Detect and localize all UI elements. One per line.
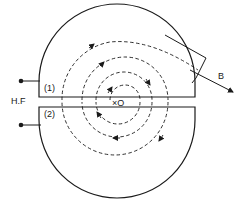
dee-lower-label: (2): [44, 110, 55, 119]
direction-arrows: [89, 44, 163, 141]
deflector-plate: [165, 35, 206, 83]
beam-exit-arrow: [190, 70, 233, 92]
spiral-path: [62, 42, 198, 155]
dee-upper: [39, 4, 195, 97]
hf-terminal-lower: [19, 123, 24, 128]
beam-label: B: [218, 72, 224, 81]
hf-label: H.F: [11, 97, 26, 106]
center-label: ×O: [112, 99, 124, 108]
dee-upper-label: (1): [44, 84, 55, 93]
hf-terminal-upper: [19, 79, 24, 84]
dee-lower: [39, 107, 195, 198]
